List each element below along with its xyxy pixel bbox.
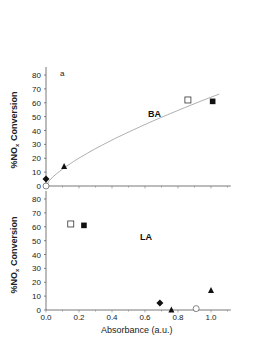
y-tick-label: 50 xyxy=(32,237,41,246)
data-point-diamond-filled xyxy=(156,300,163,307)
x-tick-label: 0.6 xyxy=(139,313,151,322)
panel-ba: 01020304050607080%NOx ConversionBAa xyxy=(9,67,231,191)
y-tick-label: 10 xyxy=(32,292,41,301)
y-axis-label: %NOx Conversion xyxy=(9,92,20,169)
data-point-square-open xyxy=(68,221,74,227)
panel-la: 01020304050607080%NOx ConversionLA xyxy=(9,191,231,315)
data-point-triangle-filled xyxy=(208,287,214,293)
y-tick-label: 20 xyxy=(32,154,41,163)
data-point-square-filled xyxy=(210,99,216,105)
y-tick-label: 40 xyxy=(32,127,41,136)
y-tick-label: 80 xyxy=(32,71,41,80)
y-tick-label: 10 xyxy=(32,168,41,177)
y-tick-label: 20 xyxy=(32,278,41,287)
data-point-triangle-filled xyxy=(168,307,174,313)
y-tick-label: 70 xyxy=(32,209,41,218)
fit-curve xyxy=(46,94,219,186)
data-point-square-filled xyxy=(81,223,87,229)
y-tick-label: 40 xyxy=(32,251,41,260)
data-point-square-open xyxy=(185,97,191,103)
y-tick-label: 50 xyxy=(32,113,41,122)
y-tick-label: 60 xyxy=(32,223,41,232)
panel-letter: a xyxy=(60,69,65,78)
y-tick-label: 70 xyxy=(32,85,41,94)
y-tick-label: 30 xyxy=(32,264,41,273)
panel-title: BA xyxy=(148,109,161,119)
x-tick-label: 0.4 xyxy=(106,313,118,322)
x-axis-label: Absorbance (a.u.) xyxy=(101,325,173,335)
y-tick-label: 60 xyxy=(32,99,41,108)
y-axis-label: %NOx Conversion xyxy=(9,217,20,294)
x-tick-label: 0.0 xyxy=(40,313,52,322)
y-tick-label: 0 xyxy=(37,182,42,191)
data-point-circle-open xyxy=(43,183,49,189)
chart-figure: 01020304050607080%NOx ConversionBAa01020… xyxy=(0,0,259,338)
data-point-circle-open xyxy=(193,306,199,312)
x-tick-label: 0.2 xyxy=(73,313,85,322)
x-tick-label: 1.0 xyxy=(205,313,217,322)
x-tick-label: 0.8 xyxy=(172,313,184,322)
y-tick-label: 30 xyxy=(32,140,41,149)
panel-title: LA xyxy=(140,232,152,242)
y-tick-label: 80 xyxy=(32,195,41,204)
